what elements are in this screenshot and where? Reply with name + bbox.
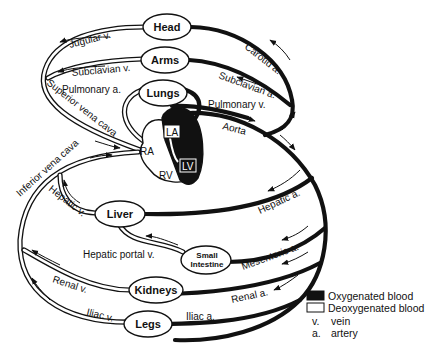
organ-head: Head [143, 14, 191, 40]
iliac-artery-label: Iliac a. [186, 311, 215, 322]
legend-oxygenated: Oxygenated blood [328, 290, 413, 302]
mesenteric-artery-label: Mesenteric a. [240, 241, 300, 272]
legs-label: Legs [135, 318, 161, 330]
liver-label: Liver [107, 208, 134, 220]
rv-label: RV [159, 170, 173, 181]
small-intestine-label-2: Intestine [191, 260, 224, 269]
organ-lungs: Lungs [139, 80, 187, 106]
legend-artery-abbr: a. [312, 327, 321, 339]
legend: Oxygenated blood Deoxygenated blood v. v… [307, 290, 424, 340]
heart: LA LV RA RV [140, 108, 203, 185]
oxygenated-swatch [307, 291, 324, 300]
legend-artery-text: artery [331, 327, 359, 339]
circulatory-diagram: LA LV RA RV Head Arms Lungs Liver Small … [0, 0, 436, 352]
legend-vein-text: vein [331, 315, 350, 327]
carotid-artery-label: Carotid a. [243, 41, 284, 76]
lv-label: LV [182, 161, 194, 172]
kidneys-label: Kidneys [135, 284, 178, 296]
arms-label: Arms [151, 54, 179, 66]
hepatic-vein-label: Hepatic v. [47, 183, 88, 219]
deoxygenated-swatch [307, 303, 324, 312]
legend-vein-abbr: v. [312, 315, 319, 327]
organ-kidneys: Kidneys [129, 277, 183, 303]
pulmonary-vein-label: Pulmonary v. [208, 99, 266, 110]
lungs-label: Lungs [147, 87, 180, 99]
organ-small-intestine: Small Intestine [181, 246, 231, 274]
organ-liver: Liver [95, 201, 145, 227]
hepatic-portal-vein-label: Hepatic portal v. [83, 249, 155, 260]
la-label: LA [166, 127, 179, 138]
legend-deoxygenated: Deoxygenated blood [328, 302, 424, 314]
small-intestine-label-1: Small [196, 251, 217, 260]
ra-label: RA [140, 146, 154, 157]
head-label: Head [154, 21, 181, 33]
organ-legs: Legs [124, 311, 172, 337]
organ-arms: Arms [141, 47, 189, 73]
